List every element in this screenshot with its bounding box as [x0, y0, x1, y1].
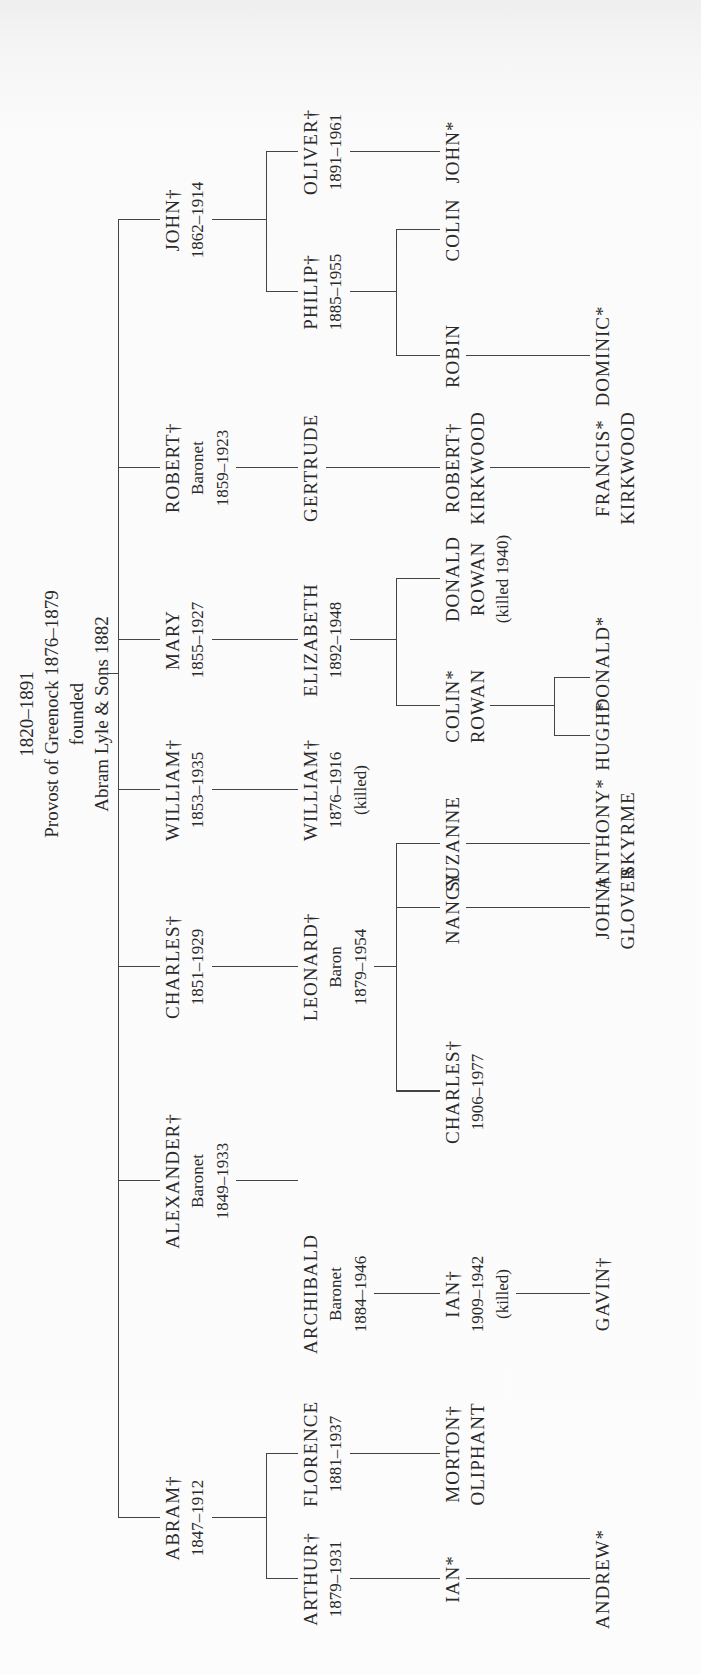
drop-robin	[396, 355, 440, 356]
person-anthony-skyrme: ANTHONY* SKYRME	[590, 778, 640, 889]
person-colin: COLIN	[440, 198, 465, 261]
link-florence	[350, 1453, 440, 1454]
person-donald-rowan: DONALD ROWAN (killed 1940)	[440, 535, 515, 623]
bar-abram-children	[266, 1454, 267, 1579]
drop-florence	[266, 1453, 298, 1454]
link-archibald	[374, 1293, 440, 1294]
person-william-jr: WILLIAM† 1876–1916 (killed)	[298, 739, 373, 841]
person-mary: MARY 1855–1927	[160, 602, 210, 679]
person-leonard: LEONARD† Baron 1879–1954	[298, 913, 373, 1021]
drop-nancy	[396, 907, 440, 908]
person-robin: ROBIN	[440, 324, 465, 388]
drop-colin-rowan	[396, 705, 440, 706]
person-gavin: GAVIN†	[590, 1257, 615, 1331]
person-elizabeth: ELIZABETH 1892–1948	[298, 583, 348, 696]
link-elizabeth	[350, 639, 396, 640]
drop-mary	[118, 639, 160, 640]
drop-hugh	[554, 735, 590, 736]
link-ian-star	[466, 1578, 590, 1579]
bar-colin-rowan-children	[554, 678, 555, 736]
drop-suzanne	[396, 843, 440, 844]
drop-philip	[266, 291, 298, 292]
gen1-bar	[118, 220, 119, 1518]
drop-charles	[118, 966, 160, 967]
person-francis-kirkwood: FRANCIS* KIRKWOOD	[590, 411, 640, 525]
drop-alexander	[118, 1180, 160, 1181]
root-provost: Provost of Greenock 1876–1879	[39, 590, 64, 838]
root-founded: founded	[64, 590, 89, 838]
person-ian-star: IAN*	[440, 1555, 465, 1602]
person-charles: CHARLES† 1851–1929	[160, 915, 210, 1019]
link-alexander	[236, 1180, 298, 1181]
link-ian-dagger	[516, 1293, 590, 1294]
person-colin-rowan: COLIN* ROWAN	[440, 669, 490, 744]
link-oliver	[350, 151, 440, 152]
person-arthur: ARTHUR† 1879–1931	[298, 1532, 348, 1625]
person-florence: FLORENCE 1881–1937	[298, 1401, 348, 1507]
link-robin	[466, 355, 590, 356]
link-william	[212, 789, 298, 790]
link-robert	[236, 467, 298, 468]
person-andrew: ANDREW*	[590, 1529, 615, 1629]
root-drop-line	[98, 673, 119, 674]
link-robert-kirkwood	[490, 467, 590, 468]
link-abram	[212, 1517, 266, 1518]
person-dominic: DOMINIC*	[590, 306, 615, 407]
person-william: WILLIAM† 1853–1935	[160, 739, 210, 841]
root-ancestor: 1820–1891 Provost of Greenock 1876–1879 …	[14, 590, 114, 838]
link-john	[212, 219, 266, 220]
bar-philip-children	[396, 230, 397, 356]
person-robert-kirkwood: ROBERT† KIRKWOOD	[440, 411, 490, 525]
drop-robert	[118, 467, 160, 468]
person-philip: PHILIP† 1885–1955	[298, 254, 348, 331]
link-nancy	[466, 907, 590, 908]
person-alexander: ALEXANDER† Baronet 1849–1933	[160, 1113, 235, 1249]
drop-colin	[396, 229, 440, 230]
link-suzanne	[466, 843, 590, 844]
root-dates: 1820–1891	[14, 590, 39, 838]
person-gertrude: GERTRUDE	[298, 414, 323, 522]
person-charles-jr: CHARLES† 1906–1977	[440, 1040, 490, 1144]
drop-donald-star	[554, 677, 590, 678]
person-archibald: ARCHIBALD Baronet 1884–1946	[298, 1234, 373, 1354]
drop-arthur	[266, 1578, 298, 1579]
person-john-star: JOHN*	[440, 120, 465, 183]
drop-abram	[118, 1517, 160, 1518]
drop-donald-rowan	[396, 578, 440, 579]
person-oliver: OLIVER† 1891–1961	[298, 109, 348, 195]
root-company: Abram Lyle & Sons 1882	[89, 590, 114, 838]
link-colin-rowan	[490, 705, 554, 706]
person-donald-star: DONALD*	[590, 616, 615, 713]
page: 1820–1891 Provost of Greenock 1876–1879 …	[0, 0, 701, 1674]
family-tree: 1820–1891 Provost of Greenock 1876–1879 …	[0, 0, 701, 1674]
bar-elizabeth-children	[396, 579, 397, 706]
link-leonard	[374, 966, 396, 967]
drop-charles-jr	[396, 1090, 440, 1092]
link-philip	[350, 291, 396, 292]
link-charles	[212, 966, 298, 967]
link-mary	[212, 639, 298, 640]
person-robert: ROBERT† Baronet 1859–1923	[160, 423, 235, 513]
drop-oliver	[266, 151, 298, 152]
bar-leonard-children	[396, 844, 397, 1092]
person-abram: ABRAM† 1847–1912	[160, 1475, 210, 1560]
person-morton-oliphant: MORTON† OLIPHANT	[440, 1403, 490, 1506]
link-arthur	[350, 1578, 440, 1579]
person-john: JOHN† 1862–1914	[160, 182, 210, 259]
person-suzanne: SUZANNE	[440, 796, 465, 892]
drop-john	[118, 219, 160, 220]
link-gertrude	[326, 467, 440, 468]
drop-william	[118, 789, 160, 790]
person-ian-dagger: IAN† 1909–1942 (killed)	[440, 1256, 515, 1333]
bar-john-children	[266, 152, 267, 292]
